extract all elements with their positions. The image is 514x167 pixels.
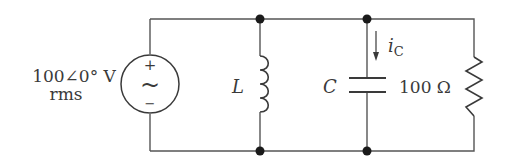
source-ac-symbol: ~ bbox=[140, 71, 160, 99]
source-unit-label: rms bbox=[50, 84, 83, 104]
node-top-capacitor bbox=[363, 15, 372, 24]
circuit-diagram: + ~ − 100∠0° V rms L C iC 100 Ω bbox=[0, 0, 514, 167]
capacitor-current-label: iC bbox=[388, 35, 404, 59]
top-wire bbox=[150, 19, 474, 57]
inductor-label: L bbox=[231, 76, 244, 97]
node-bottom-capacitor bbox=[363, 147, 372, 156]
inductor-coil-icon bbox=[260, 56, 268, 112]
node-bottom-inductor bbox=[256, 147, 265, 156]
node-top-inductor bbox=[256, 15, 265, 24]
resistor-zigzag-icon bbox=[466, 57, 482, 116]
source-value-label: 100∠0° V bbox=[32, 66, 116, 86]
resistor-label: 100 Ω bbox=[399, 77, 451, 97]
source-minus-sign: − bbox=[145, 96, 156, 111]
bottom-wire bbox=[150, 116, 474, 151]
capacitor-label: C bbox=[323, 76, 337, 97]
